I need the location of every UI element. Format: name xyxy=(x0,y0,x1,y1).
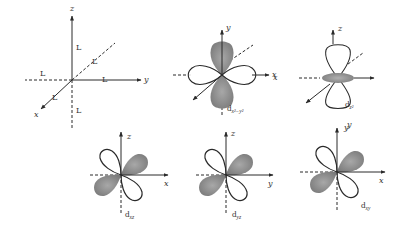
orbital-label-dxy: dxy xyxy=(361,201,370,212)
orbital-label-dyz: dyz xyxy=(232,210,241,221)
dyz-axis-label-z: z xyxy=(231,130,235,138)
axis-label-y: y xyxy=(144,76,149,84)
dx2-y2-axis-label-y: y xyxy=(226,24,231,32)
dxy-axis-label-x: x xyxy=(379,177,384,185)
orbital-dx2-y2-graphic xyxy=(173,30,269,116)
axis-label-x: x xyxy=(34,111,39,119)
orbital-dxy-graphic xyxy=(300,128,385,211)
orbital-label-dxz: dxz xyxy=(125,210,134,221)
orbital-dz2-graphic xyxy=(299,30,374,109)
diagram-graphics xyxy=(0,0,400,229)
orbital-label-subscript: xz xyxy=(130,214,135,220)
ligand-label-bottom: L xyxy=(76,107,81,115)
orbital-label-subscript: yz xyxy=(237,214,242,220)
orbital-label-subscript: z² xyxy=(350,104,354,110)
orbital-dxz-graphic xyxy=(90,132,168,213)
ligand-label-back: L xyxy=(92,58,97,66)
ligand-label-front: L xyxy=(52,94,57,102)
dz2-axis-label-z: z xyxy=(338,25,342,33)
orbital-label-subscript: x²−y² xyxy=(232,108,244,114)
d-orbital-diagram: z y x L L L L L L y x dx²−y² z x y dz² z… xyxy=(0,0,400,229)
dxy-axis-label-y: y xyxy=(344,124,349,132)
dyz-axis-label-y: y xyxy=(268,180,273,188)
ligand-label-left: L xyxy=(40,70,45,78)
axis-label-z: z xyxy=(70,5,74,13)
orbital-label-dz2: dz² xyxy=(345,100,353,111)
dxz-axis-label-x: x xyxy=(164,180,169,188)
dxz-axis-label-z: z xyxy=(127,133,131,141)
orbital-dyz-graphic xyxy=(196,132,273,213)
ligand-label-top: L xyxy=(76,44,81,52)
orbital-label-dx2-y2: dx²−y² xyxy=(227,104,243,115)
dz2-axis-label-x: x xyxy=(273,74,278,82)
orbital-label-subscript: xy xyxy=(366,205,371,211)
ligand-label-right: L xyxy=(102,76,107,84)
